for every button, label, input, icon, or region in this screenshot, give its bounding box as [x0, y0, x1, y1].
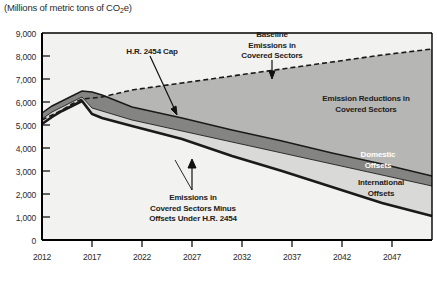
annotation-net-line1: Emissions in: [128, 193, 258, 204]
annotation-net-emissions: Emissions in Covered Sectors Minus Offse…: [128, 193, 258, 225]
annotation-baseline-emissions: Baseline Emissions in Covered Sectors: [205, 30, 339, 62]
annotation-emission-reductions: Emission Reductions in Covered Sectors: [300, 94, 432, 115]
annotation-baseline-line1: Baseline: [205, 30, 339, 41]
annotation-domestic-line2: Offsets: [330, 161, 426, 172]
annotation-baseline-line3: Covered Sectors: [205, 51, 339, 62]
annotation-net-line3: Offsets Under H.R. 2454: [128, 214, 258, 225]
annotation-international-line1: International: [334, 178, 428, 189]
x-axis-ticks: [92, 240, 392, 247]
annotation-domestic-line1: Domestic: [330, 150, 426, 161]
annotation-reductions-line2: Covered Sectors: [300, 105, 432, 116]
annotation-international-offsets: International Offsets: [334, 178, 428, 199]
annotation-hr2454-cap: H.R. 2454 Cap: [100, 47, 204, 58]
annotation-baseline-line2: Emissions in: [205, 41, 339, 52]
annotation-domestic-offsets: Domestic Offsets: [330, 150, 426, 171]
annotation-international-line2: Offsets: [334, 189, 428, 200]
annotation-reductions-line1: Emission Reductions in: [300, 94, 432, 105]
annotation-net-line2: Covered Sectors Minus: [128, 204, 258, 215]
emissions-projection-chart: (Millions of metric tons of CO2e) 9,000 …: [0, 0, 437, 286]
